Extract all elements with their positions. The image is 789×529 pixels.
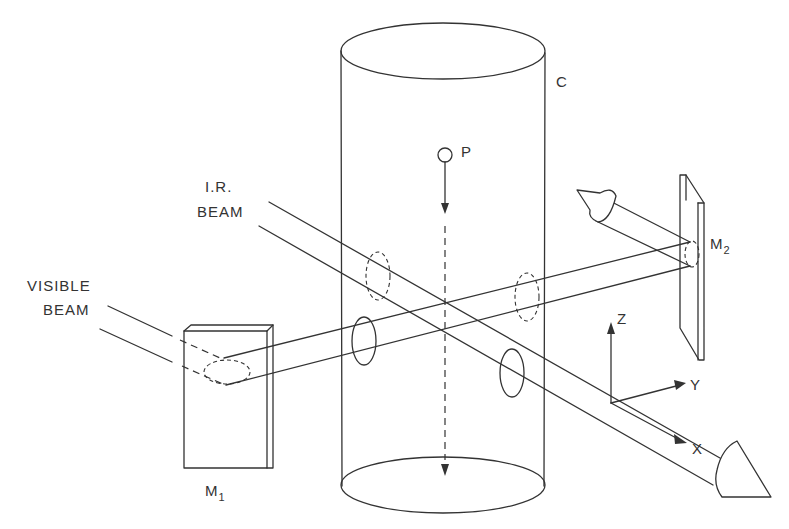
arrow-down-icon	[441, 464, 449, 476]
cylinder-label: C	[556, 73, 568, 90]
cone-arrow-icon	[716, 441, 771, 497]
cone-arrow-icon	[577, 190, 616, 222]
arrow-up-icon	[607, 322, 615, 334]
particle-path	[438, 148, 452, 476]
cylinder	[341, 23, 545, 513]
visible-beam-incoming	[100, 306, 225, 385]
arrow-right-icon	[674, 380, 686, 390]
coordinate-axes	[607, 322, 687, 444]
optical-diagram: C P I.R. BEAM VISIBLE BEAM M1	[0, 0, 789, 529]
axis-z-label: Z	[617, 310, 627, 327]
visible-beam-exit	[577, 190, 690, 266]
ir-beam-label-line2: BEAM	[197, 203, 244, 220]
visible-beam-label-line1: VISIBLE	[27, 277, 91, 294]
axis-x-label: X	[692, 440, 703, 457]
particle-label: P	[461, 143, 472, 160]
ir-beam-label-line1: I.R.	[205, 178, 232, 195]
mirror2-label: M2	[710, 235, 731, 256]
mirror-m1	[184, 325, 273, 468]
arrow-down-icon	[441, 203, 449, 214]
axis-y-label: Y	[690, 376, 701, 393]
particle-icon	[438, 148, 452, 162]
visible-beam-label-line2: BEAM	[43, 301, 90, 318]
mirror1-label: M1	[205, 482, 226, 503]
